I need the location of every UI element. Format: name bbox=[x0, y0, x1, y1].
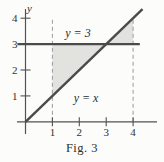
figure-svg: 12341234 y y = 3 y = x bbox=[0, 0, 164, 162]
y-axis-label: y bbox=[26, 2, 32, 14]
x-tick-label-3: 3 bbox=[103, 126, 109, 138]
figure-caption: Fig. 3 bbox=[0, 141, 164, 156]
figure: 12341234 y y = 3 y = x Fig. 3 bbox=[0, 0, 164, 162]
label-y-equals-x: y = x bbox=[73, 91, 99, 105]
y-tick-label-1: 1 bbox=[12, 90, 18, 102]
y-tick-label-4: 4 bbox=[12, 12, 18, 24]
label-y-equals-3: y = 3 bbox=[64, 26, 90, 40]
y-tick-label-3: 3 bbox=[12, 38, 18, 50]
x-tick-label-2: 2 bbox=[77, 126, 83, 138]
x-tick-label-4: 4 bbox=[130, 126, 136, 138]
x-tick-label-1: 1 bbox=[50, 126, 56, 138]
y-tick-label-2: 2 bbox=[12, 64, 18, 76]
